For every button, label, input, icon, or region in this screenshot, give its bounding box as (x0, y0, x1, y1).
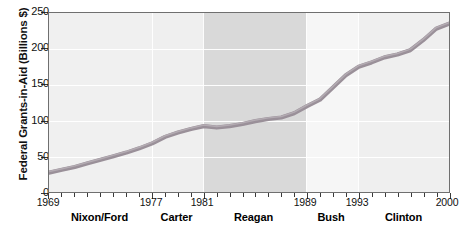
x-axis-label-1993: 1993 (337, 196, 377, 208)
federal-grants-in-aid-chart: Federal Grants-in-Aid (Billions $) 250 2… (0, 0, 467, 233)
x-axis-label-2000: 2000 (427, 196, 467, 208)
era-label-nixon-ford: Nixon/Ford (48, 211, 151, 223)
x-tick-1975 (126, 193, 127, 197)
x-axis-label-1969: 1969 (28, 196, 68, 208)
x-tick-1991 (333, 193, 334, 197)
x-tick-1985 (255, 193, 256, 197)
y-axis-label-100: 100 (9, 114, 49, 126)
plot-area (48, 12, 450, 193)
y-axis-label-250: 250 (9, 5, 49, 17)
y-axis-label-200: 200 (9, 41, 49, 53)
x-axis-label-1977: 1977 (131, 196, 171, 208)
x-tick-1971 (74, 193, 75, 197)
y-axis-label-50: 50 (9, 150, 49, 162)
x-tick-1972 (87, 193, 88, 197)
x-axis-label-1981: 1981 (182, 196, 222, 208)
y-axis-label-150: 150 (9, 77, 49, 89)
x-tick-1974 (113, 193, 114, 197)
x-tick-1997 (411, 193, 412, 197)
grants-in-aid-line (49, 13, 449, 192)
x-tick-1979 (178, 193, 179, 197)
x-tick-1987 (281, 193, 282, 197)
era-label-reagan: Reagan (202, 211, 305, 223)
era-label-carter: Carter (151, 211, 202, 223)
x-tick-1973 (100, 193, 101, 197)
era-label-clinton: Clinton (357, 211, 450, 223)
x-tick-1995 (385, 193, 386, 197)
era-label-bush: Bush (305, 211, 357, 223)
x-tick-1996 (398, 193, 399, 197)
x-tick-1984 (243, 193, 244, 197)
x-tick-1986 (268, 193, 269, 197)
x-tick-1983 (230, 193, 231, 197)
x-tick-1998 (424, 193, 425, 197)
x-axis-label-1989: 1989 (285, 196, 325, 208)
